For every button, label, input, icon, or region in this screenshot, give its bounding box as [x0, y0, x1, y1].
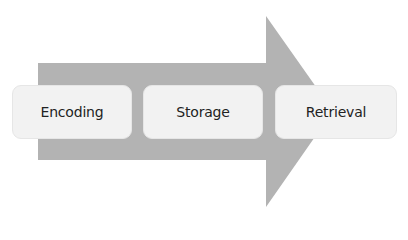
- stage-label-storage: Storage: [176, 104, 229, 120]
- stage-box-encoding: Encoding: [12, 85, 132, 139]
- stage-box-storage: Storage: [143, 85, 263, 139]
- stage-label-retrieval: Retrieval: [306, 104, 366, 120]
- stage-label-encoding: Encoding: [41, 104, 104, 120]
- stage-box-retrieval: Retrieval: [275, 85, 397, 139]
